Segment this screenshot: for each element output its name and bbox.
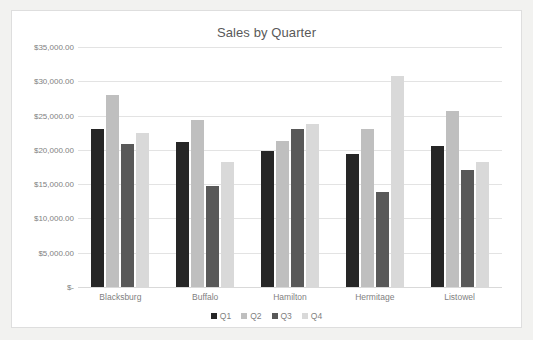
bar-buffalo-q3[interactable] bbox=[206, 186, 219, 287]
legend-swatch-icon bbox=[272, 313, 278, 319]
y-axis-tick-label: $35,000.00 bbox=[14, 43, 74, 52]
y-axis-tick-label: $15,000.00 bbox=[14, 180, 74, 189]
y-axis-tick-label: $- bbox=[14, 283, 74, 292]
legend-item-q4[interactable]: Q4 bbox=[302, 311, 322, 321]
legend-label: Q3 bbox=[281, 311, 292, 321]
bar-listowel-q2[interactable] bbox=[446, 111, 459, 287]
chart-title: Sales by Quarter bbox=[12, 25, 521, 40]
legend-swatch-icon bbox=[211, 313, 217, 319]
bar-listowel-q3[interactable] bbox=[461, 170, 474, 287]
bar-group bbox=[332, 47, 417, 287]
bar-buffalo-q4[interactable] bbox=[221, 162, 234, 287]
bar-blacksburg-q4[interactable] bbox=[136, 133, 149, 287]
legend-item-q2[interactable]: Q2 bbox=[241, 311, 261, 321]
bar-buffalo-q1[interactable] bbox=[176, 142, 189, 287]
bar-hermitage-q3[interactable] bbox=[376, 192, 389, 287]
bar-hermitage-q4[interactable] bbox=[391, 76, 404, 287]
chart-legend: Q1Q2Q3Q4 bbox=[12, 311, 521, 321]
bar-blacksburg-q1[interactable] bbox=[91, 129, 104, 287]
legend-item-q1[interactable]: Q1 bbox=[211, 311, 231, 321]
bar-blacksburg-q2[interactable] bbox=[106, 95, 119, 287]
x-axis: BlacksburgBuffaloHamiltonHermitageListow… bbox=[78, 292, 502, 302]
bar-buffalo-q2[interactable] bbox=[191, 120, 204, 287]
bar-hamilton-q1[interactable] bbox=[261, 151, 274, 287]
bar-hermitage-q2[interactable] bbox=[361, 129, 374, 287]
y-axis-tick-label: $30,000.00 bbox=[14, 77, 74, 86]
bar-hamilton-q2[interactable] bbox=[276, 141, 289, 287]
legend-item-q3[interactable]: Q3 bbox=[272, 311, 292, 321]
y-axis-tick-label: $25,000.00 bbox=[14, 111, 74, 120]
legend-label: Q4 bbox=[311, 311, 322, 321]
bar-hamilton-q3[interactable] bbox=[291, 129, 304, 287]
y-axis: $35,000.00$30,000.00$25,000.00$20,000.00… bbox=[12, 47, 74, 287]
x-axis-tick-label: Listowel bbox=[417, 292, 502, 302]
legend-swatch-icon bbox=[241, 313, 247, 319]
y-axis-tick-label: $20,000.00 bbox=[14, 145, 74, 154]
legend-label: Q2 bbox=[250, 311, 261, 321]
x-axis-tick-label: Blacksburg bbox=[78, 292, 163, 302]
bar-listowel-q1[interactable] bbox=[431, 146, 444, 287]
bars-layer bbox=[78, 47, 502, 287]
x-axis-line bbox=[78, 287, 502, 288]
x-axis-tick-label: Hamilton bbox=[248, 292, 333, 302]
legend-swatch-icon bbox=[302, 313, 308, 319]
bar-group bbox=[417, 47, 502, 287]
legend-label: Q1 bbox=[220, 311, 231, 321]
x-axis-tick-label: Hermitage bbox=[332, 292, 417, 302]
bar-hermitage-q1[interactable] bbox=[346, 154, 359, 287]
bar-listowel-q4[interactable] bbox=[476, 162, 489, 287]
bar-group bbox=[248, 47, 333, 287]
x-axis-tick-label: Buffalo bbox=[163, 292, 248, 302]
y-axis-tick-label: $5,000.00 bbox=[14, 248, 74, 257]
bar-group bbox=[78, 47, 163, 287]
bar-group bbox=[163, 47, 248, 287]
chart-container: Sales by Quarter $35,000.00$30,000.00$25… bbox=[11, 10, 522, 328]
y-axis-tick-label: $10,000.00 bbox=[14, 214, 74, 223]
bar-hamilton-q4[interactable] bbox=[306, 124, 319, 287]
bar-blacksburg-q3[interactable] bbox=[121, 144, 134, 287]
